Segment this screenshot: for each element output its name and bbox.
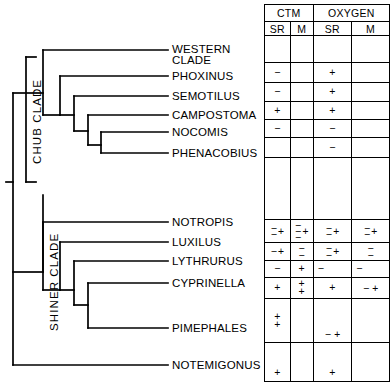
clade-label-shiner: SHINER CLADE [48, 233, 60, 331]
matrix-cell: −− [352, 243, 389, 261]
matrix-row: −+ −− −−+ −− [265, 243, 389, 261]
matrix-cell [290, 158, 313, 220]
matrix-cell [265, 138, 290, 158]
matrix-cell: ++ [265, 299, 290, 343]
matrix-row: ++ −+ [265, 299, 389, 343]
matrix-cell: − [313, 138, 352, 158]
matrix-cell [352, 36, 389, 63]
matrix-cell: + [313, 102, 352, 120]
taxon-label-luxilus: LUXILUS [172, 237, 221, 248]
matrix-cell: + [265, 102, 290, 120]
matrix-row: − [265, 138, 389, 158]
matrix-cell [313, 36, 352, 63]
matrix-group-ctm: CTM [265, 5, 313, 22]
matrix-cell: −−+ [313, 243, 352, 261]
matrix-cell [290, 36, 313, 63]
matrix-col-ctm-m: M [290, 22, 313, 36]
taxon-label-lythrurus: LYTHRURUS [172, 256, 243, 267]
matrix-cell [352, 120, 389, 138]
matrix-cell [290, 102, 313, 120]
matrix-cell: + [313, 278, 352, 299]
matrix-cell [290, 63, 313, 83]
matrix-cell [352, 102, 389, 120]
matrix-cell: −+ [352, 278, 389, 299]
matrix-cell: − [265, 261, 290, 278]
matrix-group-header-row: CTM OXYGEN [265, 5, 389, 22]
taxon-label-phoxinus: PHOXINUS [172, 71, 233, 82]
taxon-label-notemigonus: NOTEMIGONUS [172, 360, 261, 371]
matrix-cell: −−+ [313, 220, 352, 243]
matrix-cell [265, 158, 290, 220]
matrix-cell: −−+ [352, 220, 389, 243]
matrix-row: + + [265, 102, 389, 120]
matrix-cell: −−−+ [290, 220, 313, 243]
taxon-label-cyprinella: CYPRINELLA [172, 278, 245, 289]
matrix-cell [290, 299, 313, 343]
matrix-row: + + [265, 343, 389, 381]
matrix-cell: + [265, 278, 290, 299]
taxon-line: CLADE [172, 55, 231, 66]
matrix-cell: −−+ [265, 220, 290, 243]
matrix-body: − + − + + + [265, 36, 389, 381]
matrix-cell: − [265, 120, 290, 138]
matrix-cell [352, 343, 389, 381]
matrix-cell: + [313, 83, 352, 102]
matrix-cell [290, 83, 313, 102]
matrix-subheader-row: SR M SR M [265, 22, 389, 36]
matrix-col-oxygen-sr: SR [313, 22, 352, 36]
matrix-cell: + [265, 343, 290, 381]
matrix-cell [290, 120, 313, 138]
matrix-cell [352, 158, 389, 220]
matrix-cell: − [352, 261, 389, 278]
matrix-row: − + [265, 63, 389, 83]
matrix-cell: − [313, 261, 352, 278]
matrix-cell: − [265, 83, 290, 102]
taxon-label-phenacobius: PHENACOBIUS [172, 148, 257, 159]
matrix-group-oxygen: OXYGEN [313, 5, 389, 22]
matrix-cell [290, 343, 313, 381]
matrix-cell: −+ [313, 299, 352, 343]
matrix-col-ctm-sr: SR [265, 22, 290, 36]
matrix-cell: + [313, 343, 352, 381]
clade-label-chub: CHUB CLADE [31, 79, 43, 164]
matrix-cell: −− [290, 243, 313, 261]
matrix-row: −−+ −−−+ −−+ −−+ [265, 220, 389, 243]
matrix-cell: + [290, 261, 313, 278]
matrix-cell: − [313, 120, 352, 138]
taxon-label-pimephales: PIMEPHALES [172, 323, 247, 334]
matrix-cell: −+ [265, 243, 290, 261]
taxon-line: WESTERN [172, 44, 231, 55]
matrix-row [265, 36, 389, 63]
matrix-row: + ++ + −+ [265, 278, 389, 299]
matrix-cell [313, 158, 352, 220]
matrix-cell: + [313, 63, 352, 83]
matrix-col-oxygen-m: M [352, 22, 389, 36]
matrix-cell [265, 36, 290, 63]
matrix-row [265, 158, 389, 220]
matrix-cell [290, 138, 313, 158]
figure-root: CHUB CLADE SHINER CLADE WESTERN CLADE PH… [0, 0, 392, 382]
matrix-row: − + − − [265, 261, 389, 278]
taxon-label-notropis: NOTROPIS [172, 217, 233, 228]
matrix-cell: ++ [290, 278, 313, 299]
cladogram: CHUB CLADE SHINER CLADE WESTERN CLADE PH… [0, 0, 264, 382]
matrix-cell [352, 83, 389, 102]
taxon-label-campostoma: CAMPOSTOMA [172, 110, 256, 121]
matrix-cell [352, 138, 389, 158]
matrix-cell: − [265, 63, 290, 83]
taxon-label-western-clade: WESTERN CLADE [172, 44, 231, 65]
taxon-label-semotilus: SEMOTILUS [172, 91, 240, 102]
character-matrix: CTM OXYGEN SR M SR M [264, 4, 390, 382]
matrix-cell [352, 63, 389, 83]
taxon-label-nocomis: NOCOMIS [172, 127, 228, 138]
matrix-row: − − [265, 120, 389, 138]
matrix-row: − + [265, 83, 389, 102]
matrix-cell [352, 299, 389, 343]
